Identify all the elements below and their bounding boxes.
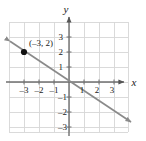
ytick-label-neg2: –2 <box>57 107 67 117</box>
coordinate-plane-svg: y x (–3, 2) –3 –2 –1 1 2 3 3 2 1 –1 –2 –… <box>0 0 146 141</box>
x-axis-label: x <box>131 76 137 88</box>
ytick-label-neg3: –3 <box>57 122 68 132</box>
ytick-label-3: 3 <box>59 32 64 42</box>
y-axis-label: y <box>63 3 69 15</box>
xtick-label-1: 1 <box>80 85 85 95</box>
point-label: (–3, 2) <box>29 38 53 48</box>
xtick-label-neg3: –3 <box>19 85 30 95</box>
xtick-label-3: 3 <box>110 85 115 95</box>
xtick-label-neg1: –1 <box>49 85 59 95</box>
ytick-label-2: 2 <box>59 47 64 57</box>
graph-figure: y x (–3, 2) –3 –2 –1 1 2 3 3 2 1 –1 –2 –… <box>0 0 146 141</box>
ytick-label-1: 1 <box>59 62 64 72</box>
plotted-point <box>21 49 27 55</box>
xtick-label-neg2: –2 <box>34 85 44 95</box>
ytick-label-neg1: –1 <box>57 92 67 102</box>
xtick-label-2: 2 <box>95 85 100 95</box>
